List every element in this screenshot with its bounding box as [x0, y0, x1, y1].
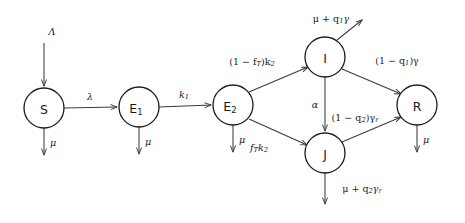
node-label-s: S	[40, 102, 48, 117]
flow-diagram-canvas: S E1 E2 I J R Λ λ k1 (1 − fT)k2 fTk2 α (…	[0, 0, 465, 223]
rate-label-j-to-r: (1 − q2)γr	[332, 112, 380, 124]
rate-label-i-to-r: (1 − q1)γ	[375, 55, 419, 67]
rate-label-e1-to-e2: k1	[179, 89, 189, 101]
rate-label-e2-to-i: (1 − fT)k2	[229, 56, 275, 68]
rate-label-s-to-e1: λ	[86, 91, 93, 102]
compartmental-flow-diagram: S E1 E2 I J R Λ λ k1 (1 − fT)k2 fTk2 α (…	[0, 0, 465, 223]
node-label-j: J	[322, 147, 327, 162]
rate-label-i-outflow: μ + q1γ	[313, 13, 350, 25]
arrow-e1-to-e2	[159, 105, 211, 107]
rate-label-e1-mu: μ	[145, 136, 151, 147]
rate-label-i-to-j: α	[312, 99, 319, 110]
arrow-e2-to-i	[249, 67, 308, 92]
node-label-i: I	[323, 51, 327, 66]
rate-label-s-mu: μ	[50, 137, 56, 148]
rate-label-e2-mu: μ	[239, 134, 245, 145]
arrow-i-to-r	[342, 69, 401, 94]
arrow-s-to-e1	[64, 107, 117, 108]
rate-label-j-outflow: μ + q2γr	[342, 183, 382, 195]
rate-label-inflow-lambda-cap: Λ	[48, 26, 56, 37]
rate-label-r-mu: μ	[423, 134, 429, 145]
rate-label-e2-to-j: fTk2	[249, 142, 268, 154]
node-label-r: R	[413, 99, 422, 114]
node-labels-group: S E1 E2 I J R	[40, 51, 422, 162]
